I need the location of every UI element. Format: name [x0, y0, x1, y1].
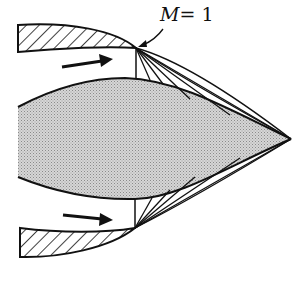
upper-flow-arrow-icon	[62, 54, 113, 67]
mach-value: = 1	[179, 3, 213, 25]
mach-number-label: M= 1	[160, 3, 214, 25]
upper-cowl-wall	[18, 24, 136, 52]
plug-body	[18, 78, 291, 199]
lower-flow-arrow-icon	[63, 213, 113, 226]
lower-cowl-wall	[20, 228, 135, 257]
plug-nozzle-diagram	[0, 0, 306, 289]
sonic-point-leader-arrow-icon	[138, 29, 163, 47]
mach-symbol: M	[160, 3, 179, 25]
